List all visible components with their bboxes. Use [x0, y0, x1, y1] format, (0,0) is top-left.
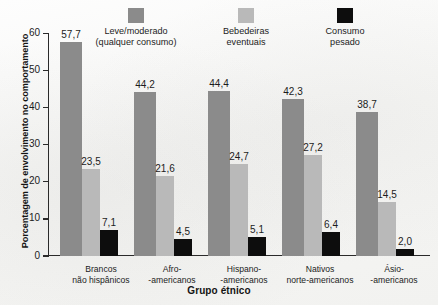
y-tick-label: 60	[10, 28, 40, 38]
bar-value-label: 38,7	[357, 100, 376, 110]
y-tick-label: 50	[10, 65, 40, 75]
bar-value-label: 5,1	[250, 225, 264, 235]
bar-group: 44,424,75,1	[208, 33, 268, 256]
bar: 24,7	[230, 164, 248, 256]
bar-value-label: 23,5	[81, 157, 100, 167]
bar: 2,0	[396, 249, 414, 256]
bar-value-label: 57,7	[61, 30, 80, 40]
light-gray-swatch	[238, 8, 254, 23]
bar: 4,5	[174, 239, 192, 256]
bar-group: 44,221,64,5	[134, 33, 194, 256]
bar: 14,5	[378, 202, 396, 256]
dark-gray-swatch	[128, 8, 144, 23]
y-tick-mark	[43, 144, 49, 145]
y-tick-mark	[43, 256, 49, 257]
black-swatch	[337, 8, 353, 23]
bar-value-label: 14,5	[377, 190, 396, 200]
bar: 27,2	[304, 155, 322, 256]
bar-value-label: 6,4	[324, 220, 338, 230]
bar-group: 38,714,52,0	[356, 33, 416, 256]
y-axis-ticks: 0102030405060	[6, 28, 48, 261]
bar-chart-figure: Porcentagem de envolvimento no comportam…	[0, 0, 438, 305]
y-tick-mark	[43, 218, 49, 219]
y-tick-mark	[43, 33, 49, 34]
y-tick-label: 0	[10, 251, 40, 261]
plot-area: 0102030405060 57,723,57,144,221,64,544,4…	[48, 28, 430, 261]
bar: 23,5	[82, 169, 100, 256]
bar: 21,6	[156, 176, 174, 256]
bar: 5,1	[248, 237, 266, 256]
bar-value-label: 27,2	[303, 143, 322, 153]
bar-group: 42,327,26,4	[282, 33, 342, 256]
x-category-label-line: Ásio-	[334, 264, 438, 275]
y-tick-label: 10	[10, 213, 40, 223]
y-tick-mark	[43, 181, 49, 182]
bar: 57,7	[60, 42, 82, 256]
bar-value-label: 7,1	[102, 218, 116, 228]
y-tick-label: 20	[10, 176, 40, 186]
bar-value-label: 4,5	[176, 227, 190, 237]
bar-value-label: 21,6	[155, 164, 174, 174]
bar-value-label: 24,7	[229, 152, 248, 162]
y-tick-mark	[43, 107, 49, 108]
bar: 44,4	[208, 91, 230, 256]
bar-value-label: 42,3	[283, 87, 302, 97]
bar: 42,3	[282, 99, 304, 256]
bar-group: 57,723,57,1	[60, 33, 120, 256]
y-tick-label: 30	[10, 139, 40, 149]
bar-value-label: 44,4	[209, 79, 228, 89]
bar: 44,2	[134, 92, 156, 256]
x-axis-title: Grupo étnico	[0, 285, 438, 296]
x-category-label-line: -americanos	[334, 275, 438, 286]
bar-value-label: 2,0	[398, 237, 412, 247]
x-category-label: Ásio--americanos	[334, 264, 438, 285]
y-tick-label: 40	[10, 102, 40, 112]
bar-value-label: 44,2	[135, 80, 154, 90]
bar: 6,4	[322, 232, 340, 256]
bar: 38,7	[356, 112, 378, 256]
bar: 7,1	[100, 230, 118, 256]
y-tick-mark	[43, 70, 49, 71]
